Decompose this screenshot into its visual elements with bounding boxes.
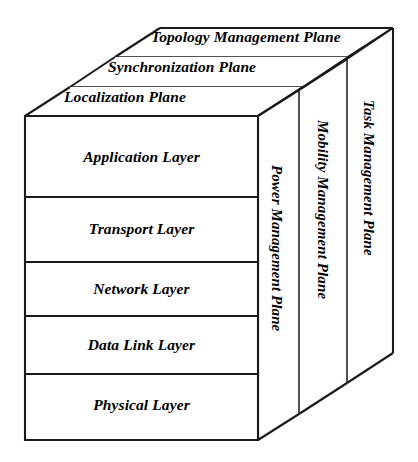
side-plane-label-task: Task Management Plane (360, 100, 377, 256)
layer-label-transport: Transport Layer (25, 220, 258, 238)
layer-label-data-link: Data Link Layer (25, 336, 258, 354)
layer-label-network: Network Layer (25, 280, 258, 298)
top-plane-label-topology: Topology Management Plane (151, 28, 341, 46)
protocol-stack-diagram: Topology Management Plane Synchronizatio… (0, 0, 418, 462)
top-plane-label-localization: Localization Plane (64, 88, 186, 106)
top-plane-label-synchronization: Synchronization Plane (108, 58, 256, 76)
layer-label-application: Application Layer (25, 148, 258, 166)
side-plane-label-mobility: Mobility Management Plane (314, 120, 331, 299)
side-plane-label-power: Power Management Plane (268, 165, 285, 331)
layer-label-physical: Physical Layer (25, 396, 258, 414)
